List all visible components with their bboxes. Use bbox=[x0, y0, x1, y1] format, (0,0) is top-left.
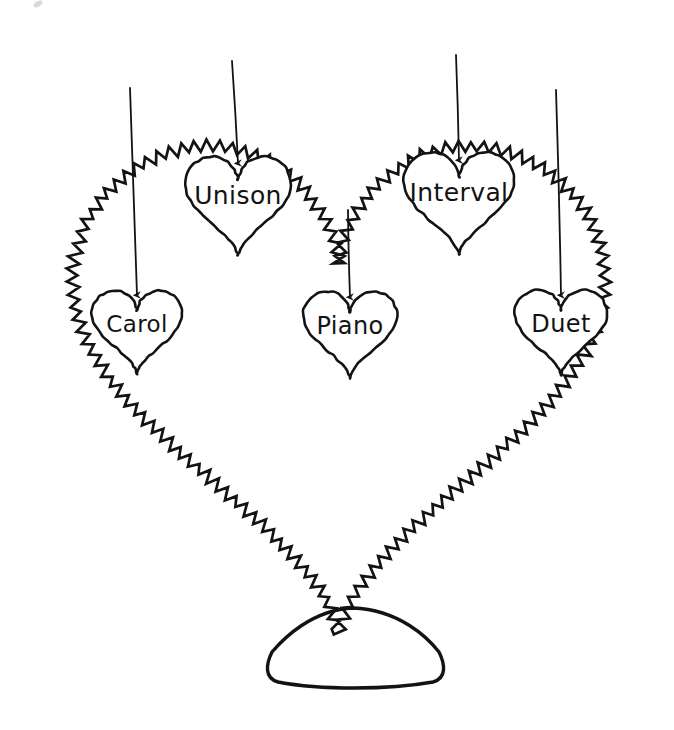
node-label-interval: Interval bbox=[410, 178, 509, 207]
node-heart-unison[interactable]: Unison bbox=[185, 156, 291, 255]
stray-smudge bbox=[32, 0, 43, 9]
node-heart-carol[interactable]: Carol bbox=[91, 290, 182, 374]
node-heart-interval[interactable]: Interval bbox=[403, 152, 514, 255]
outer-heart-outline bbox=[67, 139, 611, 634]
node-label-carol: Carol bbox=[106, 311, 168, 337]
base-pedestal bbox=[267, 608, 443, 688]
diagram-canvas: CarolUnisonPianoIntervalDuet bbox=[0, 0, 674, 730]
node-label-duet: Duet bbox=[531, 310, 590, 338]
arrow-line bbox=[130, 88, 137, 295]
node-label-piano: Piano bbox=[316, 312, 383, 340]
node-label-unison: Unison bbox=[194, 181, 282, 210]
node-heart-duet[interactable]: Duet bbox=[514, 289, 607, 375]
node-heart-piano[interactable]: Piano bbox=[303, 292, 398, 379]
hand-drawn-heart-diagram: CarolUnisonPianoIntervalDuet bbox=[0, 0, 674, 730]
arrow-to-carol bbox=[130, 88, 137, 295]
